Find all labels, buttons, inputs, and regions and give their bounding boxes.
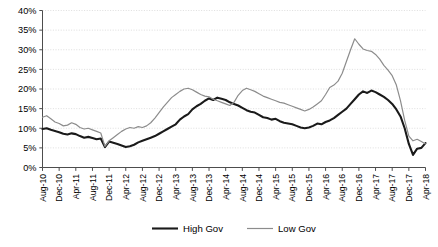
series-line-high-gov <box>43 91 426 155</box>
x-axis-tick-label: Dec-11 <box>104 174 114 201</box>
x-axis-tick-label: Apr-16 <box>321 174 331 200</box>
y-axis-tick-label: 15% <box>18 104 36 114</box>
x-axis-tick-label: Dec-17 <box>404 174 414 202</box>
y-axis-tick-label: 0% <box>23 163 36 173</box>
y-axis-tick-label: 40% <box>18 6 36 16</box>
y-axis-tick-label: 20% <box>18 84 36 94</box>
y-axis-tick-label: 25% <box>18 65 36 75</box>
x-axis-tick-label: Apr-17 <box>371 174 381 200</box>
x-axis-tick-label: Aug-11 <box>88 174 98 201</box>
y-axis-tick-label: 30% <box>18 45 36 55</box>
x-axis-tick-label: Dec-10 <box>54 174 64 202</box>
series-lines <box>43 39 426 155</box>
x-axis-tick-label: Dec-16 <box>354 174 364 202</box>
x-axis-tick-label: Aug-13 <box>188 174 198 202</box>
x-axis-tick-label: Dec-12 <box>154 174 164 202</box>
x-axis-tick-label: Apr-15 <box>271 174 281 200</box>
x-axis <box>43 168 426 171</box>
y-axis-tick-label: 10% <box>18 124 36 134</box>
x-axis-tick-label: Apr-13 <box>171 174 181 200</box>
x-axis-tick-label: Apr-14 <box>221 174 231 200</box>
x-axis-tick-label: Apr-18 <box>421 174 431 200</box>
x-axis-tick-label: Dec-13 <box>204 174 214 202</box>
y-axis-tick-label: 35% <box>18 25 36 35</box>
chart-legend: High GovLow Gov <box>152 223 316 234</box>
x-axis-tick-label: Apr-11 <box>71 174 81 199</box>
x-axis-tick-label: Apr-12 <box>121 174 131 200</box>
x-axis-tick-label: Aug-17 <box>387 174 397 202</box>
x-axis-tick-label: Aug-16 <box>337 174 347 202</box>
x-axis-tick-label: Dec-14 <box>254 174 264 202</box>
x-axis-tick-label: Aug-12 <box>138 174 148 202</box>
y-axis <box>39 11 42 168</box>
grid-lines <box>43 11 426 168</box>
line-chart: 0%5%10%15%20%25%30%35%40% Aug-10Dec-10Ap… <box>0 0 438 247</box>
x-axis-tick-label: Aug-10 <box>38 174 48 202</box>
legend-label-high-gov: High Gov <box>183 223 223 234</box>
y-axis-tick-labels: 0%5%10%15%20%25%30%35%40% <box>18 6 36 173</box>
y-axis-tick-label: 5% <box>23 143 36 153</box>
chart-canvas: 0%5%10%15%20%25%30%35%40% Aug-10Dec-10Ap… <box>0 0 438 247</box>
x-axis-tick-label: Aug-14 <box>238 174 248 202</box>
x-axis-tick-labels: Aug-10Dec-10Apr-11Aug-11Dec-11Apr-12Aug-… <box>38 174 431 202</box>
x-axis-tick-label: Dec-15 <box>304 174 314 202</box>
legend-label-low-gov: Low Gov <box>278 223 316 234</box>
x-axis-tick-label: Aug-15 <box>287 174 297 202</box>
